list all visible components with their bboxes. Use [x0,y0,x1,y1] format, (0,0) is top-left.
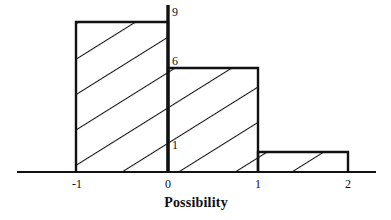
histogram-plot-area [0,0,391,220]
x-tick-label-1: 1 [255,178,261,190]
x-tick-label-2: 2 [345,178,351,190]
bar-hatch-fill [60,5,370,185]
x-tick-label-minus1: -1 [72,178,82,190]
value-label-1: 1 [172,139,178,151]
value-label-9: 9 [172,6,178,18]
value-label-6: 6 [172,55,178,67]
x-axis-title: Possibility [164,196,228,210]
x-tick-label-0: 0 [165,178,171,190]
histogram-figure: 9 6 1 -1 0 1 2 Possibility [0,0,391,220]
